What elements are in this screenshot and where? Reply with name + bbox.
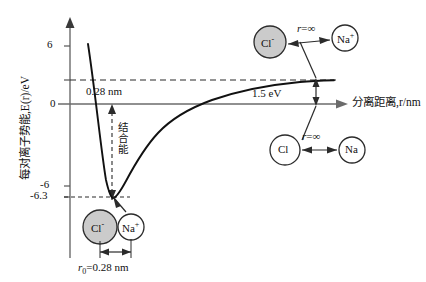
separated-ionpair-distance-label: r=∞ bbox=[297, 23, 315, 34]
y-tick-label-minus6p3: -6.3 bbox=[30, 190, 47, 201]
separated-ionpair-arrow-left bbox=[288, 40, 299, 47]
equilibrium-distance-label: 0.28 nm bbox=[86, 86, 122, 97]
separated-anion-symbol: Cl bbox=[261, 37, 271, 49]
separated-ionpair-arrow-right bbox=[319, 37, 330, 44]
potential-energy-diagram: 每对离子势能,E(r)/eV 分离距离,r/nm 6 0 -6 -6.3 0.2… bbox=[0, 0, 426, 282]
potential-energy-curve bbox=[88, 44, 334, 198]
bound-anion-symbol: Cl bbox=[91, 222, 101, 234]
x-axis-title: 分离距离,r/nm bbox=[352, 97, 421, 109]
asymptote-energy-text: 1.5 eV bbox=[252, 87, 281, 99]
y-tick-label-minus6p3-text: -6.3 bbox=[30, 189, 47, 201]
separated-ionpair-distance-value: =∞ bbox=[301, 22, 315, 34]
bond-length-caption: r0=0.28 nm bbox=[78, 262, 129, 276]
y-tick-label-6: 6 bbox=[47, 39, 53, 50]
x-axis-title-text: 分离距离,r/nm bbox=[352, 96, 421, 108]
separated-anion-charge: - bbox=[271, 35, 274, 44]
binding-energy-label: 结合能 bbox=[116, 122, 127, 155]
separated-atom-left-symbol: Cl bbox=[278, 143, 288, 155]
bound-anion-label: Cl- bbox=[91, 221, 104, 234]
y-axis-arrowhead bbox=[66, 17, 75, 28]
y-axis-title: 每对离子势能,E(r)/eV bbox=[20, 76, 32, 180]
separated-cation-label: Na+ bbox=[337, 32, 354, 45]
bond-length-caption-value: =0.28 nm bbox=[86, 261, 128, 273]
separated-atompair-distance-label: r=∞ bbox=[302, 131, 320, 142]
upper-ionpair-leader-line bbox=[300, 42, 316, 78]
separated-atompair-arrow-right bbox=[327, 147, 337, 154]
bound-ionpair-leader-arrow bbox=[113, 196, 121, 208]
separated-atom-right-symbol: Na bbox=[345, 143, 358, 155]
bound-cation-label: Na+ bbox=[122, 221, 139, 234]
y-tick-label-0: 0 bbox=[50, 98, 56, 109]
separated-atom-right-label: Na bbox=[345, 144, 358, 155]
binding-energy-text: 结合能 bbox=[117, 122, 128, 155]
asymptote-energy-label: 1.5 eV bbox=[252, 88, 281, 99]
separated-atompair-arrow-left bbox=[302, 147, 312, 154]
separated-atompair-distance-value: =∞ bbox=[306, 130, 320, 142]
bond-length-arrow-right bbox=[122, 249, 131, 256]
plot-canvas bbox=[0, 0, 426, 282]
binding-energy-arrow-up bbox=[108, 104, 116, 114]
y-tick-label-6-text: 6 bbox=[47, 38, 53, 50]
separated-anion-label: Cl- bbox=[261, 36, 274, 49]
separated-atom-left-label: Cl bbox=[278, 144, 288, 155]
bond-length-arrow-left bbox=[100, 249, 109, 256]
bound-cation-charge: + bbox=[135, 220, 140, 229]
x-axis-arrowhead bbox=[336, 100, 348, 109]
y-tick-label-0-text: 0 bbox=[50, 97, 56, 109]
separated-cation-symbol: Na bbox=[337, 33, 350, 45]
separated-cation-charge: + bbox=[350, 31, 355, 40]
bound-anion-charge: - bbox=[101, 220, 104, 229]
asymptote-gap-arrow-up bbox=[313, 78, 320, 87]
y-axis-title-text: 每对离子势能,E(r)/eV bbox=[19, 76, 31, 180]
equilibrium-distance-text: 0.28 nm bbox=[86, 85, 122, 97]
bound-cation-symbol: Na bbox=[122, 222, 135, 234]
